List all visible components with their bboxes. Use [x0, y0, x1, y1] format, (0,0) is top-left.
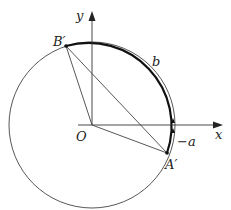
arc-label-minus-a: −a: [177, 134, 196, 149]
point-A-prime-label: A′: [164, 157, 177, 172]
x-axis-label: x: [215, 127, 223, 142]
segment-OA: [92, 125, 167, 153]
point-A-prime: [165, 151, 169, 155]
y-axis-label: y: [75, 8, 84, 23]
arc-label-b: b: [152, 54, 160, 69]
diagram-canvas: y x O B′ A′ b −a: [0, 0, 231, 210]
y-axis-arrow-icon: [89, 11, 96, 21]
segment-OB: [66, 46, 92, 125]
point-B-prime-label: B′: [52, 34, 66, 49]
origin-label: O: [76, 129, 87, 144]
